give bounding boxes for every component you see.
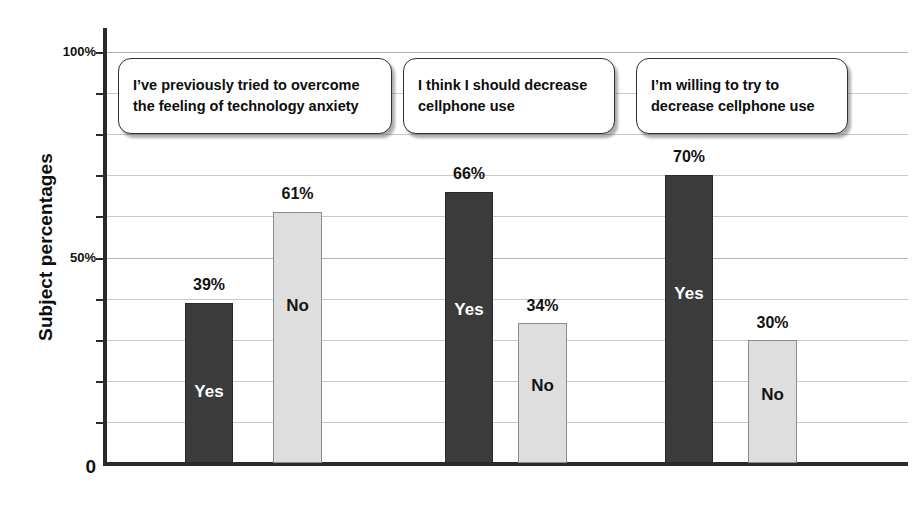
gridline-60 xyxy=(107,216,908,217)
bar-group1-no-value: 61% xyxy=(273,185,322,203)
callout-anxiety-line2: the feeling of technology anxiety xyxy=(133,98,359,114)
bar-group1-no-label: No xyxy=(274,296,321,316)
bar-group3-yes-label: Yes xyxy=(666,284,712,304)
callout-anxiety-line1: I’ve previously tried to overcome xyxy=(133,77,359,93)
callout-willing[interactable]: I’m willing to try to decrease cellphone… xyxy=(636,58,848,134)
y-axis-line xyxy=(103,28,107,465)
gridline-50 xyxy=(107,258,908,259)
y-axis-title: Subject percentages xyxy=(35,137,57,357)
callout-should-decrease[interactable]: I think I should decrease cellphone use xyxy=(403,58,615,134)
y-tick-label-50: 50% xyxy=(44,250,96,265)
y-tick-label-0: 0 xyxy=(44,456,96,478)
bar-group2-no-label: No xyxy=(519,376,566,396)
bar-group2-no[interactable]: No xyxy=(518,323,567,463)
callout-anxiety-text: I’ve previously tried to overcome the fe… xyxy=(133,75,359,117)
callout-willing-line2: decrease cellphone use xyxy=(651,98,815,114)
gridline-70 xyxy=(107,175,908,176)
callout-anxiety[interactable]: I’ve previously tried to overcome the fe… xyxy=(118,58,392,134)
callout-should-decrease-line1: I think I should decrease xyxy=(418,77,587,93)
gridline-80 xyxy=(107,134,908,135)
callout-should-decrease-text: I think I should decrease cellphone use xyxy=(418,75,587,117)
callout-willing-line1: I’m willing to try to xyxy=(651,77,779,93)
bar-group1-yes-value: 39% xyxy=(185,276,233,294)
bar-group3-no[interactable]: No xyxy=(748,340,797,463)
bar-group3-no-value: 30% xyxy=(748,314,797,332)
y-tick-label-100: 100% xyxy=(44,44,96,59)
bar-group1-no[interactable]: No xyxy=(273,212,322,463)
bar-group3-yes[interactable]: Yes xyxy=(665,175,713,463)
bar-chart: Subject percentages 100% 50% 0 Yes 39% N… xyxy=(0,0,914,512)
bar-group1-yes-label: Yes xyxy=(186,382,232,402)
bar-group1-yes[interactable]: Yes xyxy=(185,303,233,463)
bar-group3-no-label: No xyxy=(749,385,796,405)
bar-group2-no-value: 34% xyxy=(518,297,567,315)
bar-group3-yes-value: 70% xyxy=(665,148,713,166)
callout-willing-text: I’m willing to try to decrease cellphone… xyxy=(651,75,815,117)
bar-group2-yes-label: Yes xyxy=(446,300,492,320)
gridline-40 xyxy=(107,299,908,300)
bar-group2-yes[interactable]: Yes xyxy=(445,192,493,463)
gridline-100 xyxy=(107,52,908,53)
bar-group2-yes-value: 66% xyxy=(445,165,493,183)
callout-should-decrease-line2: cellphone use xyxy=(418,98,515,114)
